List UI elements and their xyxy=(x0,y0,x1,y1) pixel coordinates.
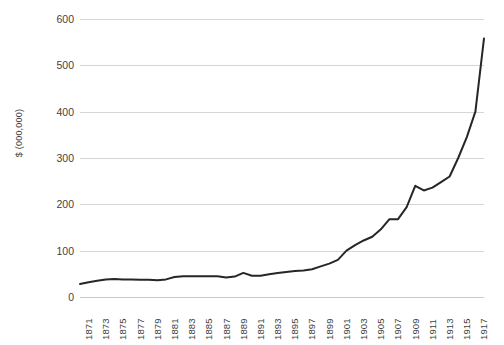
plot-area xyxy=(80,19,484,297)
x-tick-label-1913: 1913 xyxy=(445,318,455,340)
x-tick-label-1901: 1901 xyxy=(342,318,352,340)
x-tick-label-1907: 1907 xyxy=(393,318,403,340)
y-tick-label-300: 300 xyxy=(28,153,74,164)
x-tick-label-1909: 1909 xyxy=(411,318,421,340)
x-tick-label-1873: 1873 xyxy=(101,318,111,340)
x-tick-label-1897: 1897 xyxy=(307,318,317,340)
y-tick-label-200: 200 xyxy=(28,199,74,210)
gridline-0 xyxy=(80,297,484,298)
series-line-value xyxy=(80,38,484,284)
x-tick-label-1899: 1899 xyxy=(325,318,335,340)
y-tick-label-400: 400 xyxy=(28,107,74,118)
line-chart: $ (000,000) 0100200300400500600 18711873… xyxy=(0,0,504,345)
x-tick-label-1905: 1905 xyxy=(376,318,386,340)
x-tick-label-1903: 1903 xyxy=(359,318,369,340)
x-tick-label-1895: 1895 xyxy=(290,318,300,340)
x-tick-label-1911: 1911 xyxy=(428,319,438,340)
x-tick-label-1915: 1915 xyxy=(462,318,472,340)
y-axis-tick-labels: 0100200300400500600 xyxy=(22,0,74,345)
x-tick-label-1889: 1889 xyxy=(239,318,249,340)
series-line-chart xyxy=(80,19,484,297)
x-tick-label-1885: 1885 xyxy=(204,318,214,340)
y-tick-label-600: 600 xyxy=(28,14,74,25)
x-tick-label-1917: 1917 xyxy=(479,318,489,340)
x-tick-label-1891: 1891 xyxy=(256,318,266,340)
y-tick-label-500: 500 xyxy=(28,60,74,71)
y-tick-label-100: 100 xyxy=(28,246,74,257)
x-tick-label-1881: 1881 xyxy=(170,318,180,340)
x-tick-label-1875: 1875 xyxy=(118,318,128,340)
x-tick-label-1877: 1877 xyxy=(136,318,146,340)
x-tick-label-1871: 1871 xyxy=(84,318,94,340)
x-tick-label-1879: 1879 xyxy=(153,318,163,340)
y-tick-label-0: 0 xyxy=(28,292,74,303)
x-tick-label-1887: 1887 xyxy=(222,318,232,340)
x-tick-label-1883: 1883 xyxy=(187,318,197,340)
x-axis-tick-labels: 1871187318751877187918811883188518871889… xyxy=(80,300,484,345)
x-tick-label-1893: 1893 xyxy=(273,318,283,340)
